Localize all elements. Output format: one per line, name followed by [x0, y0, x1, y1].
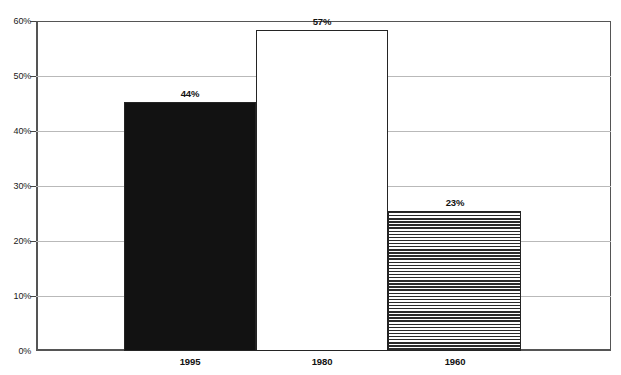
x-axis-label-1980: 1980 [282, 357, 362, 367]
y-axis-tickmark-40 [30, 131, 36, 132]
x-axis-label-1960: 1960 [415, 357, 495, 367]
bar-chart: 60% 50% 40% 30% 20% 10% 0% 44% 57% 23% 1… [0, 0, 621, 375]
bar-1980[interactable] [256, 30, 388, 351]
y-axis-tick-0: 0% [0, 347, 31, 356]
bar-1995[interactable] [124, 102, 256, 351]
y-axis-tickmark-50 [30, 76, 36, 77]
y-axis-tickmark-30 [30, 186, 36, 187]
y-axis-tickmark-10 [30, 296, 36, 297]
y-axis-tick-20: 20% [0, 237, 31, 246]
y-axis-tickmark-60 [30, 21, 36, 22]
y-axis-tick-60: 60% [0, 17, 31, 26]
x-axis-label-1995: 1995 [150, 357, 230, 367]
y-axis-tickmark-20 [30, 241, 36, 242]
y-axis-tick-40: 40% [0, 127, 31, 136]
bar-value-label-1980: 57% [282, 17, 362, 27]
bar-value-label-1960: 23% [415, 198, 495, 208]
bar-1960[interactable] [388, 211, 521, 351]
bar-value-label-1995: 44% [150, 89, 230, 99]
y-axis-tick-50: 50% [0, 72, 31, 81]
y-axis-tick-10: 10% [0, 292, 31, 301]
y-axis-tick-30: 30% [0, 182, 31, 191]
